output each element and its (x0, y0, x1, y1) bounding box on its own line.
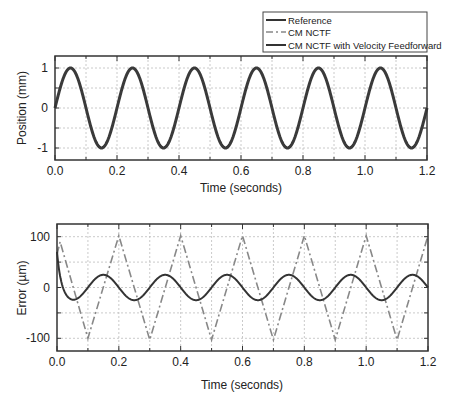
position-plot-xlabel: Time (seconds) (200, 181, 282, 195)
x-tick-label: 0.2 (109, 164, 126, 178)
y-tick-label: 0 (41, 101, 48, 115)
x-tick-label: 0.2 (110, 355, 127, 369)
error-plot-ylabel: Error (µm) (15, 261, 29, 316)
x-tick-label: 1.2 (419, 164, 436, 178)
y-tick-label: -100 (26, 331, 50, 345)
position-plot-ylabel: Position (mm) (15, 71, 29, 145)
error-plot: 0.00.20.40.60.81.01.2-1000100 (26, 224, 437, 369)
x-tick-label: 0.4 (172, 355, 189, 369)
legend-label-cm-nctf: CM NCTF (288, 27, 331, 38)
x-tick-label: 0.0 (49, 355, 66, 369)
x-tick-label: 1.2 (420, 355, 437, 369)
y-tick-label: 0 (43, 281, 50, 295)
legend-label-cm-nctf-vff: CM NCTF with Velocity Feedforward (288, 40, 442, 51)
x-tick-label: 1.0 (358, 355, 375, 369)
legend: Reference CM NCTF CM NCTF with Velocity … (263, 12, 442, 52)
y-tick-label: -1 (37, 141, 48, 155)
x-tick-label: 0.4 (171, 164, 188, 178)
position-plot: 0.00.20.40.60.81.01.2-101 (37, 56, 435, 178)
y-tick-label: 1 (41, 61, 48, 75)
x-tick-label: 0.6 (234, 355, 251, 369)
figure: Reference CM NCTF CM NCTF with Velocity … (0, 0, 455, 403)
x-tick-label: 0.0 (47, 164, 64, 178)
x-tick-label: 0.8 (295, 164, 312, 178)
x-tick-label: 1.0 (357, 164, 374, 178)
error-plot-xlabel: Time (seconds) (201, 378, 283, 392)
x-tick-label: 0.6 (233, 164, 250, 178)
x-tick-label: 0.8 (296, 355, 313, 369)
legend-label-reference: Reference (288, 15, 332, 26)
y-tick-label: 100 (30, 230, 50, 244)
